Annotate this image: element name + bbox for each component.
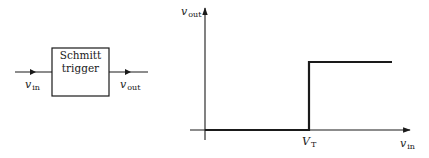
input-signal-line <box>15 69 52 75</box>
block-label: Schmitt trigger <box>52 49 109 75</box>
x-axis-label: vin <box>400 138 415 151</box>
output-signal-line <box>109 69 148 75</box>
transfer-curve <box>205 62 392 130</box>
diagram-canvas <box>0 0 429 158</box>
output-label: vout <box>120 79 140 92</box>
input-label: vin <box>25 79 40 92</box>
threshold-label: VT <box>302 136 316 149</box>
y-axis-label: vout <box>181 6 201 19</box>
output-arrow-icon <box>125 69 131 75</box>
block-label-line2: trigger <box>52 62 109 75</box>
block-label-line1: Schmitt <box>52 49 109 62</box>
input-arrow-icon <box>30 69 36 75</box>
